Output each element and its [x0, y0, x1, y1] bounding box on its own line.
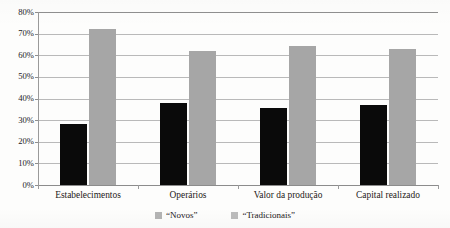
bar-novos [160, 103, 187, 185]
bar-novos [260, 108, 287, 185]
y-axis-tick-label: 60% [0, 51, 34, 60]
y-axis-tick-label: 50% [0, 72, 34, 81]
y-axis-tick-label: 20% [0, 137, 34, 146]
bar-novos [60, 124, 87, 185]
bar-novos [360, 105, 387, 185]
legend-item[interactable]: “Novos” [155, 211, 198, 220]
bar-chart: 80%70%60%50%40%30%20%10%0% Estabelecimen… [0, 0, 450, 228]
y-axis-tick-label: 80% [0, 8, 34, 17]
x-axis-category-label: Operários [138, 188, 238, 202]
bar-tradicionais [289, 46, 316, 185]
x-axis-category-labels: EstabelecimentosOperáriosValor da produç… [38, 188, 438, 204]
x-axis-category-label: Valor da produção [238, 188, 338, 202]
legend-swatch-icon [231, 212, 238, 219]
chart-title-cropped [60, 0, 260, 2]
bar-tradicionais [189, 51, 216, 185]
x-axis-category-label: Estabelecimentos [38, 188, 138, 202]
y-axis-tick-label: 0% [0, 181, 34, 190]
y-axis-tick-label: 70% [0, 29, 34, 38]
legend-label: “Tradicionais” [242, 211, 295, 220]
y-axis-tick-label: 30% [0, 116, 34, 125]
legend-item[interactable]: “Tradicionais” [231, 211, 295, 220]
plot-area [38, 12, 438, 185]
x-axis-category-label: Capital realizado [338, 188, 438, 202]
x-axis-tick-mark [438, 185, 439, 189]
legend-swatch-icon [155, 212, 162, 219]
y-axis-tick-label: 40% [0, 94, 34, 103]
bar-series-container [38, 12, 438, 185]
chart-legend: “Novos”“Tradicionais” [0, 207, 450, 223]
bar-tradicionais [89, 29, 116, 185]
bar-tradicionais [389, 49, 416, 185]
legend-label: “Novos” [166, 211, 198, 220]
y-axis-tick-label: 10% [0, 159, 34, 168]
